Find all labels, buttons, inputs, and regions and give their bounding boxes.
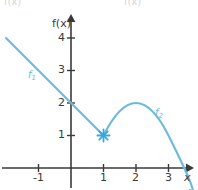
x-tick-label-2: 2: [132, 172, 139, 183]
curve-label-f2: f2: [155, 108, 163, 118]
curve-label-f1-text: f: [28, 69, 32, 80]
y-axis-title: f(x): [52, 18, 71, 29]
curve-label-f2-text: f: [155, 107, 159, 118]
curve-label-f1: f1: [28, 70, 36, 80]
y-tick-label-3: 3: [58, 64, 65, 75]
y-tick-label-2: 2: [58, 97, 65, 108]
x-axis-title: x: [184, 172, 191, 183]
x-tick-label-neg1: -1: [33, 172, 44, 183]
y-tick-label-4: 4: [58, 32, 65, 43]
curve-label-f2-subscript: 2: [159, 112, 163, 120]
curve-label-f1-subscript: 1: [32, 74, 36, 82]
x-tick-label-1: 1: [100, 172, 107, 183]
plot-canvas: [0, 0, 198, 190]
curve-f2: [104, 103, 193, 190]
function-graph-figure: f(x) f(x): [0, 0, 198, 190]
curve-f1: [6, 38, 104, 136]
y-tick-label-1: 1: [58, 129, 65, 140]
x-tick-label-3: 3: [165, 172, 172, 183]
junction-point-star-icon: [98, 130, 110, 142]
